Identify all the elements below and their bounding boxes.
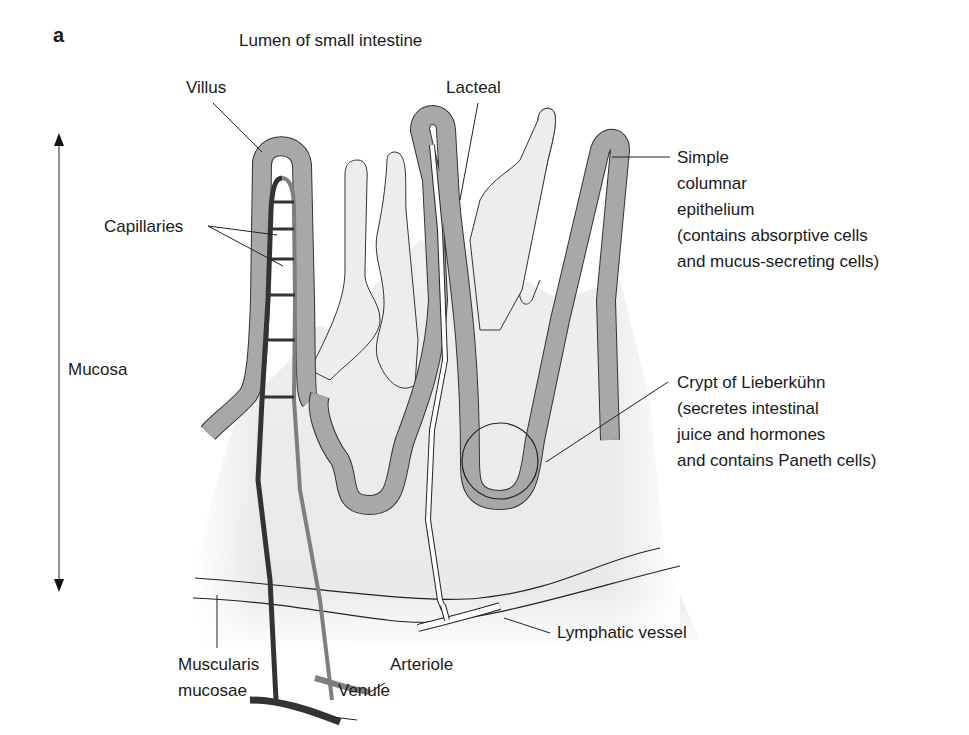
diagram-illustration xyxy=(0,0,969,735)
mucosa-label: Mucosa xyxy=(68,359,128,381)
arteriole-label: Arteriole xyxy=(390,654,453,676)
lymphatic-vessel-label: Lymphatic vessel xyxy=(557,622,687,644)
lacteal-label: Lacteal xyxy=(446,77,501,99)
intestinal-mucosa-diagram: a Lumen of small intestine Villus Lactea… xyxy=(0,0,969,735)
villus-label: Villus xyxy=(186,77,226,99)
figure-title: Lumen of small intestine xyxy=(239,30,422,52)
muscularis-mucosae-label: Muscularis mucosae xyxy=(178,654,259,698)
epithelium-label: Simple columnar epithelium (contains abs… xyxy=(677,147,879,257)
panel-letter: a xyxy=(53,24,64,47)
venule-label: Venule xyxy=(338,680,390,702)
capillaries-label: Capillaries xyxy=(104,216,183,238)
crypt-label: Crypt of Lieberkühn (secretes intestinal… xyxy=(677,372,876,460)
